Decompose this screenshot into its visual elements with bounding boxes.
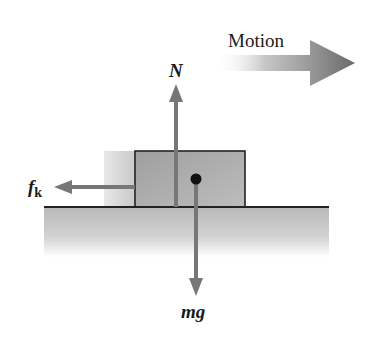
normal-force-label: N xyxy=(168,60,184,81)
sliding-block xyxy=(135,151,245,207)
friction-force-label: fk xyxy=(28,176,42,200)
ground-surface xyxy=(44,207,329,257)
motion-blur-shadow xyxy=(104,151,136,207)
gravity-force-label: mg xyxy=(181,301,205,322)
center-of-mass-dot xyxy=(191,174,202,185)
motion-label: Motion xyxy=(228,30,284,51)
free-body-diagram: Motion N mg fk xyxy=(0,0,374,342)
